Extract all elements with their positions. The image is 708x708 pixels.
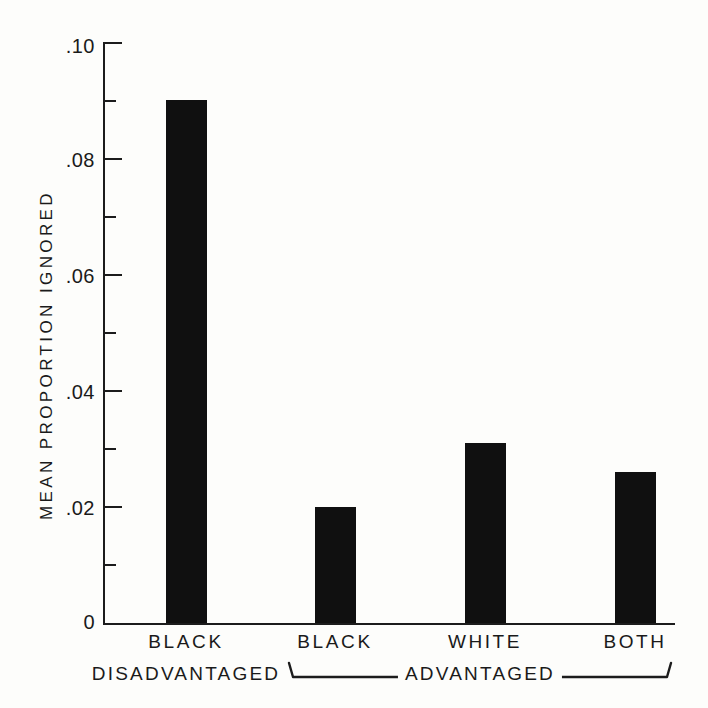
y-tick-label-08: .08 <box>35 150 95 170</box>
bar-chart-figure: MEAN PROPORTION IGNORED .10 .08 .06 .04 … <box>0 0 708 708</box>
x-label-white: WHITE <box>448 631 522 653</box>
y-tick-label-10: .10 <box>35 36 95 56</box>
bar-black-1 <box>315 507 356 623</box>
x-axis-line <box>103 623 675 625</box>
bar-black-0 <box>166 100 207 623</box>
x-sublabel-disadvantaged: DISADVANTAGED <box>92 663 280 685</box>
x-label-both: BOTH <box>603 631 666 653</box>
x-label-black-disadvantaged: BLACK <box>148 631 223 653</box>
bar-both-3 <box>615 472 656 623</box>
y-tick-label-04: .04 <box>35 382 95 402</box>
x-label-black-advantaged: BLACK <box>297 631 372 653</box>
y-tick-label-0: 0 <box>35 612 95 632</box>
y-axis-title: MEAN PROPORTION IGNORED <box>37 175 57 535</box>
advantaged-group-label: ADVANTAGED <box>398 663 562 685</box>
y-tick-label-06: .06 <box>35 266 95 286</box>
plot-area <box>103 42 675 623</box>
y-tick-label-02: .02 <box>35 498 95 518</box>
bar-white-2 <box>465 443 506 623</box>
